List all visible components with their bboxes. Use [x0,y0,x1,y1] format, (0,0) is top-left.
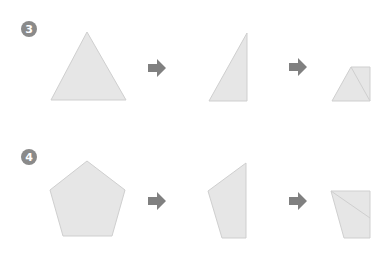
folded-trapezoid-shape [332,67,370,101]
step-number: 3 [25,23,33,36]
right-arrow-icon [289,192,307,210]
regular-pentagon-shape [50,161,125,236]
row-step-4: 4 [21,149,370,238]
step-number: 4 [25,151,33,164]
row-step-3: 3 [21,21,370,101]
half-pentagon-shape [208,163,246,238]
right-arrow-icon [148,59,166,77]
folded-quadrilateral-shape [331,191,370,238]
equilateral-triangle-shape [51,32,126,100]
step-badge-4: 4 [21,149,37,165]
right-arrow-icon [148,192,166,210]
right-arrow-icon [289,58,307,76]
step-badge-3: 3 [21,21,37,37]
folding-diagram: 3 4 [0,0,390,265]
right-triangle-half-shape [209,33,247,101]
